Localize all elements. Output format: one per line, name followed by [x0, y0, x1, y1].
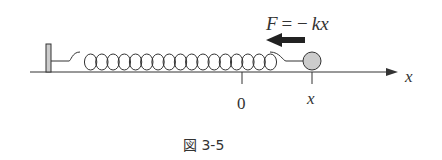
position-label: x: [306, 89, 315, 108]
axis-label: x: [404, 67, 413, 86]
figure-caption: 図 3-5: [183, 134, 224, 154]
force-arrow-icon: [266, 33, 305, 47]
mass-ball: [303, 52, 321, 70]
spring: [51, 52, 303, 70]
wall: [46, 44, 51, 72]
axis-arrowhead-icon: [386, 68, 398, 76]
force-label: F= −kx: [265, 13, 329, 34]
origin-label: 0: [237, 94, 246, 113]
